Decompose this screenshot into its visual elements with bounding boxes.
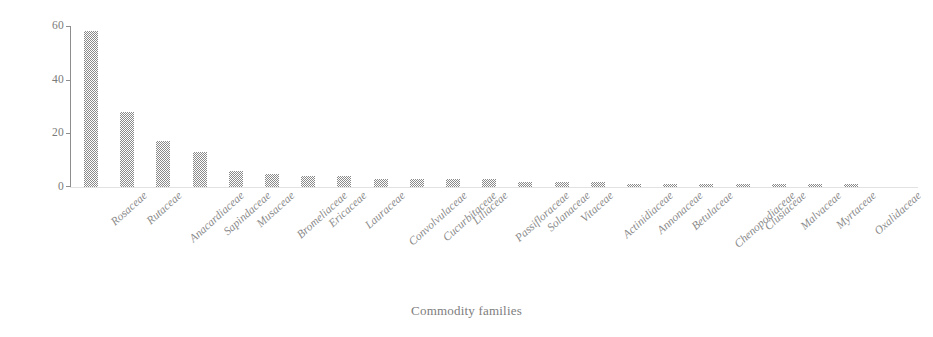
bar xyxy=(736,184,750,187)
y-axis-tick-label: 20 xyxy=(34,127,64,139)
bar xyxy=(808,184,822,187)
bar-chart-figure: 6040200 RosaceaeRutaceaeAnacardiaceaeSap… xyxy=(0,0,933,337)
bar xyxy=(374,179,388,187)
bar xyxy=(229,171,243,187)
x-axis-title: Commodity families xyxy=(0,303,933,319)
bar xyxy=(410,179,424,187)
x-axis-tick-label: Cucurbitaceae xyxy=(440,189,498,243)
bar xyxy=(193,152,207,187)
x-axis-tick-label: Lauraceae xyxy=(363,189,408,231)
bar xyxy=(555,182,569,187)
bar xyxy=(699,184,713,187)
bar xyxy=(772,184,786,187)
bar xyxy=(482,179,496,187)
bar xyxy=(84,31,98,187)
y-axis-tick-label: 40 xyxy=(34,74,64,86)
bar xyxy=(591,182,605,187)
bar xyxy=(337,176,351,187)
y-axis-tick-mark xyxy=(66,80,71,81)
y-axis-tick-mark xyxy=(66,133,71,134)
y-axis-tick-label: 0 xyxy=(34,181,64,193)
bar xyxy=(844,184,858,187)
x-axis-tick-label: Rosaceae xyxy=(108,189,149,227)
bar xyxy=(301,176,315,187)
bar xyxy=(265,174,279,187)
x-axis-baseline xyxy=(70,187,918,188)
y-axis-tick-labels: 6040200 xyxy=(28,0,64,337)
bar xyxy=(156,141,170,187)
bar xyxy=(446,179,460,187)
bar xyxy=(518,182,532,187)
bar xyxy=(627,184,641,187)
y-axis-tick-label: 60 xyxy=(34,20,64,32)
bar xyxy=(120,112,134,187)
x-axis-tick-labels: RosaceaeRutaceaeAnacardiaceaeSapindaceae… xyxy=(70,189,930,309)
plot-area xyxy=(70,26,920,187)
bar xyxy=(663,184,677,187)
x-axis-tick-label: Rutaceae xyxy=(144,189,184,227)
x-axis-tick-label: Oxalidaceae xyxy=(872,189,923,237)
